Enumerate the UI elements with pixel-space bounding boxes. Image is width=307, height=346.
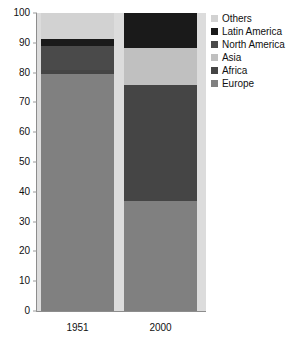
stacked-bar-chart: 0102030405060708090100 OthersLatin Ameri…	[0, 0, 307, 346]
y-tick-mark	[33, 162, 37, 163]
legend-item-latin-america[interactable]: Latin America	[211, 25, 307, 38]
y-tick-mark	[33, 42, 37, 43]
y-tick-mark	[33, 102, 37, 103]
legend-item-others[interactable]: Others	[211, 12, 307, 25]
legend-label: North America	[222, 39, 285, 50]
y-axis: 0102030405060708090100	[0, 0, 34, 346]
y-tick-mark	[33, 281, 37, 282]
legend-swatch-icon	[211, 67, 218, 74]
legend-swatch-icon	[211, 15, 218, 22]
legend-swatch-icon	[211, 80, 218, 87]
x-axis-line	[36, 311, 206, 312]
bar-segment-latin-america	[124, 13, 197, 48]
bar-column	[41, 13, 114, 311]
y-tick-label: 10	[19, 276, 30, 286]
bar-segment-europe	[41, 74, 114, 311]
plot-area	[37, 13, 206, 311]
bar-stack	[41, 13, 114, 311]
y-tick-label: 20	[19, 246, 30, 256]
bar-segment-latin-america	[41, 39, 114, 46]
y-tick-label: 30	[19, 217, 30, 227]
legend-label: Asia	[222, 52, 241, 63]
x-category-label: 2000	[124, 322, 197, 333]
y-tick-label: 50	[19, 157, 30, 167]
bar-segment-asia	[124, 48, 197, 85]
legend-label: Others	[222, 13, 252, 24]
legend-label: Europe	[222, 78, 254, 89]
bar-stack	[124, 13, 197, 311]
y-tick-mark	[33, 72, 37, 73]
legend-swatch-icon	[211, 54, 218, 61]
bar-segment-north-america	[41, 46, 114, 70]
legend-swatch-icon	[211, 41, 218, 48]
y-tick-mark	[33, 191, 37, 192]
y-tick-mark	[33, 13, 37, 14]
y-tick-label: 0	[25, 306, 30, 316]
bar-segment-africa	[41, 70, 114, 74]
y-tick-mark	[33, 251, 37, 252]
legend-swatch-icon	[211, 28, 218, 35]
bar-segment-africa	[124, 85, 197, 202]
y-tick-label: 60	[19, 127, 30, 137]
legend-item-africa[interactable]: Africa	[211, 64, 307, 77]
y-tick-mark	[33, 311, 37, 312]
bar-segment-europe	[124, 201, 197, 311]
y-tick-label: 90	[19, 38, 30, 48]
y-tick-mark	[33, 132, 37, 133]
y-tick-mark	[33, 221, 37, 222]
bar-column	[124, 13, 197, 311]
y-tick-label: 80	[19, 68, 30, 78]
legend-label: Latin America	[222, 26, 282, 37]
y-tick-label: 40	[19, 187, 30, 197]
y-tick-label: 100	[14, 8, 30, 18]
legend-label: Africa	[222, 65, 247, 76]
legend-item-europe[interactable]: Europe	[211, 77, 307, 90]
x-category-label: 1951	[41, 322, 114, 333]
y-tick-label: 70	[19, 97, 30, 107]
legend-item-asia[interactable]: Asia	[211, 51, 307, 64]
legend-item-north-america[interactable]: North America	[211, 38, 307, 51]
chart-legend: OthersLatin AmericaNorth AmericaAsiaAfri…	[211, 12, 307, 90]
bar-segment-others	[41, 13, 114, 39]
